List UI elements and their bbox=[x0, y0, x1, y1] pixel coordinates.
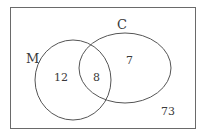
c-only-count: 7 bbox=[126, 54, 133, 67]
set-m-label: M bbox=[26, 51, 39, 66]
set-c-ellipse bbox=[79, 33, 171, 103]
set-c-label: C bbox=[117, 17, 127, 32]
intersection-count: 8 bbox=[93, 71, 100, 84]
outside-count: 73 bbox=[161, 105, 175, 118]
venn-diagram: M C 12 8 7 73 bbox=[0, 0, 203, 132]
m-only-count: 12 bbox=[54, 71, 68, 84]
